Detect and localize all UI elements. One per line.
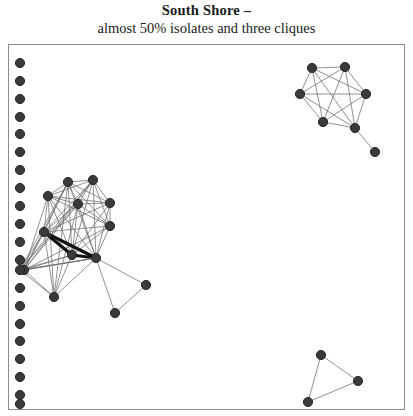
figure-subtitle: almost 50% isolates and three cliques <box>0 19 413 37</box>
figure-title-block: South Shore – almost 50% isolates and th… <box>0 0 413 37</box>
plot-frame <box>8 44 405 410</box>
page-title: South Shore – <box>0 0 413 19</box>
sociogram-figure: South Shore – almost 50% isolates and th… <box>0 0 413 416</box>
